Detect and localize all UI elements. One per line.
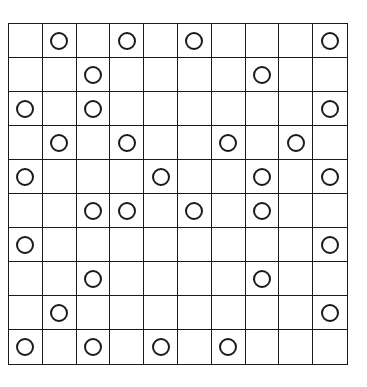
grid-cell-r7-c1[interactable] [43,262,77,296]
grid-cell-r2-c9[interactable] [313,92,347,126]
grid-cell-r4-c2[interactable] [77,160,111,194]
grid-cell-r9-c5[interactable] [178,330,212,364]
grid-cell-r3-c4[interactable] [144,126,178,160]
grid-cell-r7-c4[interactable] [144,262,178,296]
grid-cell-r6-c1[interactable] [43,228,77,262]
grid-cell-r2-c8[interactable] [279,92,313,126]
grid-cell-r8-c5[interactable] [178,296,212,330]
grid-cell-r7-c8[interactable] [279,262,313,296]
grid-cell-r9-c4[interactable] [144,330,178,364]
grid-cell-r4-c5[interactable] [178,160,212,194]
grid-cell-r1-c2[interactable] [77,58,111,92]
grid-cell-r4-c0[interactable] [9,160,43,194]
grid-cell-r1-c8[interactable] [279,58,313,92]
grid-cell-r4-c8[interactable] [279,160,313,194]
grid-cell-r9-c8[interactable] [279,330,313,364]
grid-cell-r4-c1[interactable] [43,160,77,194]
grid-cell-r3-c1[interactable] [43,126,77,160]
grid-cell-r5-c4[interactable] [144,194,178,228]
grid-cell-r2-c1[interactable] [43,92,77,126]
grid-cell-r3-c3[interactable] [110,126,144,160]
grid-cell-r9-c1[interactable] [43,330,77,364]
grid-cell-r3-c8[interactable] [279,126,313,160]
grid-cell-r2-c3[interactable] [110,92,144,126]
grid-cell-r8-c6[interactable] [212,296,246,330]
grid-cell-r0-c9[interactable] [313,24,347,58]
grid-cell-r5-c8[interactable] [279,194,313,228]
grid-cell-r6-c0[interactable] [9,228,43,262]
grid-cell-r8-c4[interactable] [144,296,178,330]
grid-cell-r7-c6[interactable] [212,262,246,296]
grid-cell-r8-c2[interactable] [77,296,111,330]
grid-cell-r1-c9[interactable] [313,58,347,92]
grid-cell-r8-c1[interactable] [43,296,77,330]
grid-cell-r5-c9[interactable] [313,194,347,228]
grid-cell-r3-c5[interactable] [178,126,212,160]
grid-cell-r5-c3[interactable] [110,194,144,228]
grid-cell-r6-c3[interactable] [110,228,144,262]
grid-cell-r8-c9[interactable] [313,296,347,330]
grid-cell-r0-c2[interactable] [77,24,111,58]
grid-cell-r8-c7[interactable] [246,296,280,330]
grid-cell-r4-c7[interactable] [246,160,280,194]
grid-cell-r5-c2[interactable] [77,194,111,228]
grid-cell-r1-c6[interactable] [212,58,246,92]
grid-cell-r6-c5[interactable] [178,228,212,262]
grid-cell-r6-c8[interactable] [279,228,313,262]
grid-cell-r9-c7[interactable] [246,330,280,364]
grid-cell-r9-c0[interactable] [9,330,43,364]
grid-cell-r6-c6[interactable] [212,228,246,262]
grid-cell-r7-c3[interactable] [110,262,144,296]
grid-cell-r5-c0[interactable] [9,194,43,228]
grid-cell-r2-c2[interactable] [77,92,111,126]
grid-cell-r3-c6[interactable] [212,126,246,160]
grid-cell-r5-c1[interactable] [43,194,77,228]
grid-cell-r6-c9[interactable] [313,228,347,262]
grid-cell-r1-c3[interactable] [110,58,144,92]
grid-cell-r0-c4[interactable] [144,24,178,58]
grid-cell-r8-c8[interactable] [279,296,313,330]
grid-cell-r1-c1[interactable] [43,58,77,92]
grid-cell-r4-c4[interactable] [144,160,178,194]
grid-cell-r9-c3[interactable] [110,330,144,364]
grid-cell-r7-c0[interactable] [9,262,43,296]
grid-cell-r1-c5[interactable] [178,58,212,92]
grid-cell-r8-c0[interactable] [9,296,43,330]
grid-cell-r0-c6[interactable] [212,24,246,58]
grid-cell-r3-c0[interactable] [9,126,43,160]
grid-cell-r1-c7[interactable] [246,58,280,92]
grid-cell-r0-c3[interactable] [110,24,144,58]
grid-cell-r0-c5[interactable] [178,24,212,58]
grid-cell-r0-c0[interactable] [9,24,43,58]
grid-cell-r7-c5[interactable] [178,262,212,296]
grid-cell-r9-c9[interactable] [313,330,347,364]
grid-cell-r2-c6[interactable] [212,92,246,126]
grid-cell-r0-c8[interactable] [279,24,313,58]
grid-cell-r3-c7[interactable] [246,126,280,160]
grid-cell-r0-c7[interactable] [246,24,280,58]
grid-cell-r5-c7[interactable] [246,194,280,228]
grid-cell-r2-c0[interactable] [9,92,43,126]
grid-cell-r7-c2[interactable] [77,262,111,296]
grid-cell-r2-c7[interactable] [246,92,280,126]
grid-cell-r2-c5[interactable] [178,92,212,126]
grid-cell-r3-c2[interactable] [77,126,111,160]
grid-cell-r1-c0[interactable] [9,58,43,92]
grid-cell-r8-c3[interactable] [110,296,144,330]
grid-cell-r0-c1[interactable] [43,24,77,58]
grid-cell-r4-c3[interactable] [110,160,144,194]
grid-cell-r5-c5[interactable] [178,194,212,228]
grid-cell-r3-c9[interactable] [313,126,347,160]
grid-cell-r6-c4[interactable] [144,228,178,262]
grid-cell-r9-c2[interactable] [77,330,111,364]
grid-cell-r6-c7[interactable] [246,228,280,262]
grid-cell-r7-c7[interactable] [246,262,280,296]
grid-cell-r1-c4[interactable] [144,58,178,92]
grid-cell-r7-c9[interactable] [313,262,347,296]
grid-cell-r4-c6[interactable] [212,160,246,194]
grid-cell-r6-c2[interactable] [77,228,111,262]
grid-cell-r9-c6[interactable] [212,330,246,364]
grid-cell-r4-c9[interactable] [313,160,347,194]
grid-cell-r2-c4[interactable] [144,92,178,126]
grid-cell-r5-c6[interactable] [212,194,246,228]
